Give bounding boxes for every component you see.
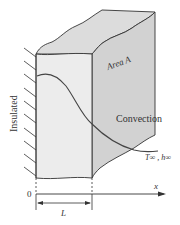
insulation-hatch — [24, 48, 36, 178]
length-arrow-right-icon — [85, 201, 91, 205]
wall-front-face — [36, 53, 92, 178]
plane-wall-diagram: Insulated Area A Convection T∞ , h∞ x 0 … — [0, 0, 180, 225]
length-arrow-left-icon — [37, 201, 43, 205]
dimension-guides — [36, 178, 92, 194]
origin-label: 0 — [27, 189, 32, 199]
convection-label: Convection — [116, 113, 162, 124]
insulated-label: Insulated — [8, 95, 19, 132]
x-axis-arrow-icon — [158, 192, 166, 197]
length-label: L — [60, 208, 66, 218]
ambient-conditions-label: T∞ , h∞ — [145, 153, 171, 162]
x-axis-label: x — [153, 181, 158, 191]
